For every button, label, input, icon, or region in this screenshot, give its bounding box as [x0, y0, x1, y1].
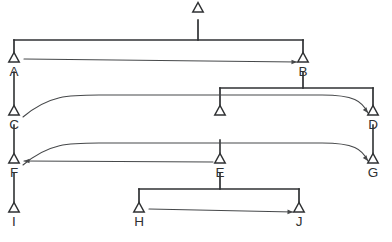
tree-node-triangle-A: [9, 53, 19, 63]
arrowhead-A-to-B: [291, 60, 297, 65]
tree-node-triangle-B: [298, 53, 308, 63]
tree-node-triangle-C: [9, 106, 19, 116]
tree-node-label-D: D: [368, 117, 378, 132]
movement-arrow-H-to-J: [149, 209, 293, 212]
movement-arrow-A-to-B: [24, 59, 297, 62]
tree-node-label-J: J: [296, 214, 303, 229]
tree-nodes-group: ABCDFEGIHJ: [9, 3, 378, 229]
tree-node-triangle-mid: [215, 106, 225, 116]
tree-node-label-B: B: [298, 64, 307, 79]
tree-node-triangle-D: [368, 106, 378, 116]
tree-node-label-H: H: [134, 214, 144, 229]
tree-diagram-svg: ABCDFEGIHJ: [0, 0, 392, 242]
arrowhead-H-to-J: [287, 210, 293, 215]
tree-node-label-A: A: [9, 64, 18, 79]
tree-node-label-E: E: [215, 165, 224, 180]
tree-node-label-C: C: [9, 117, 19, 132]
tree-node-label-I: I: [12, 214, 16, 229]
arrowhead-F-to-G: [363, 155, 368, 161]
tree-node-triangle-E: [215, 154, 225, 164]
tree-node-triangle-J: [294, 203, 304, 213]
tree-node-label-G: G: [368, 165, 379, 180]
movement-arrow-E-to-F: [24, 161, 213, 162]
tree-node-label-F: F: [10, 165, 18, 180]
bracket-connectors-group: [14, 20, 373, 204]
movement-arrows-group: [23, 59, 368, 214]
tree-diagram-canvas: ABCDFEGIHJ: [0, 0, 392, 242]
straight-edges-group: [14, 72, 373, 204]
tree-node-triangle-I: [9, 203, 19, 213]
tree-node-triangle-H: [134, 203, 144, 213]
figure-caption: [0, 233, 392, 242]
movement-arrow-C-to-D: [23, 95, 368, 117]
tree-node-triangle-G: [368, 154, 378, 164]
tree-node-triangle-F: [9, 154, 19, 164]
tree-node-triangle-root: [193, 3, 203, 13]
arrowhead-C-to-D: [363, 107, 368, 113]
